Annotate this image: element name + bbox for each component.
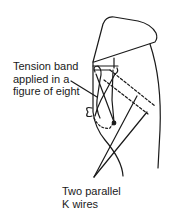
k-wire-leader-1 bbox=[94, 96, 137, 177]
tension-band-diagram: Tension band applied in a figure of eigh… bbox=[0, 0, 172, 209]
ulna-posterior-outline bbox=[150, 44, 160, 168]
k-wires-label-line-2: K wires bbox=[62, 198, 121, 210]
k-wire-1 bbox=[110, 70, 155, 106]
tension-band-label-line-3: figure of eight bbox=[13, 85, 80, 98]
k-wires-label-line-1: Two parallel bbox=[62, 185, 121, 198]
tension-band-label: Tension band applied in a figure of eigh… bbox=[13, 60, 80, 98]
k-wires-label: Two parallel K wires bbox=[62, 185, 121, 209]
k-wire-2 bbox=[104, 80, 148, 114]
tension-band-label-line-1: Tension band bbox=[13, 60, 80, 73]
tension-band-label-line-2: applied in a bbox=[13, 73, 80, 86]
olecranon-fragment bbox=[93, 17, 157, 62]
k-wire-leader-2 bbox=[94, 112, 147, 177]
bone-illustration bbox=[0, 0, 172, 209]
figure-eight-wire bbox=[94, 66, 101, 118]
